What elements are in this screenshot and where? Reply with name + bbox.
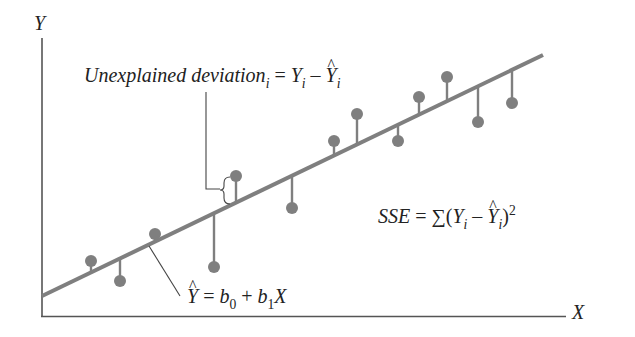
equals-sign: =	[198, 285, 219, 307]
data-point	[413, 91, 425, 103]
b1-symbol: b	[257, 285, 267, 307]
data-point	[506, 97, 518, 109]
y-hat-symbol: Y	[326, 65, 337, 85]
data-point	[85, 255, 97, 267]
y-axis-label: Y	[34, 13, 45, 33]
unexplained-deviation-label: Unexplained deviationi = Yi – Yi	[84, 65, 341, 85]
data-point	[149, 228, 161, 240]
data-point	[441, 71, 453, 83]
sse-formula-label: SSE = ∑(Yi – Yi)2	[378, 206, 516, 226]
equation-leader-line	[149, 246, 180, 296]
close-paren: )	[502, 205, 509, 227]
equals-sign: =	[269, 64, 290, 86]
deviation-subscript: i	[266, 76, 270, 91]
data-point	[286, 202, 298, 214]
y-hat-symbol: Y	[487, 206, 498, 226]
sse-symbol: SSE	[378, 205, 410, 227]
data-point	[208, 261, 220, 273]
data-points	[85, 71, 518, 287]
y-subscript: i	[302, 76, 306, 91]
deviation-brace	[220, 177, 230, 204]
deviation-text: Unexplained deviation	[84, 64, 266, 86]
data-point	[114, 275, 126, 287]
y-symbol: Y	[452, 205, 463, 227]
x-axis-label: X	[572, 302, 584, 322]
regression-diagram	[0, 0, 635, 337]
minus-sign: –	[467, 205, 487, 227]
y-hat-subscript: i	[337, 76, 341, 91]
b1-subscript: 1	[267, 297, 274, 312]
plus-sign: +	[236, 285, 257, 307]
data-point	[328, 135, 340, 147]
data-point	[230, 170, 242, 182]
y-hat-subscript: i	[498, 217, 502, 232]
b0-subscript: 0	[229, 297, 236, 312]
deviation-leader-line	[206, 92, 220, 189]
sigma-symbol: ∑	[432, 205, 446, 227]
y-symbol: Y	[291, 64, 302, 86]
x-symbol: X	[274, 285, 286, 307]
data-point	[392, 135, 404, 147]
data-point	[351, 108, 363, 120]
y-hat-symbol: Y	[187, 286, 198, 306]
minus-sign: –	[306, 64, 326, 86]
y-subscript: i	[464, 217, 468, 232]
regression-equation-label: Y = b0 + b1X	[187, 286, 287, 306]
regression-line	[42, 55, 543, 296]
data-point	[472, 116, 484, 128]
equals-sign: =	[410, 205, 431, 227]
power-superscript: 2	[509, 203, 516, 218]
b0-symbol: b	[219, 285, 229, 307]
